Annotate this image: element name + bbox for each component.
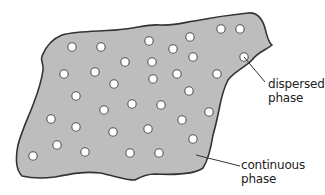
dispersed-particle xyxy=(121,58,129,66)
dispersed-particle xyxy=(144,125,152,133)
dispersed-particle xyxy=(157,101,165,109)
dispersed-particle xyxy=(100,106,108,114)
dispersed-particle xyxy=(72,123,80,131)
dispersed-particle xyxy=(128,100,136,108)
dispersed-phase-label: dispersed phase xyxy=(268,77,325,105)
dispersed-leader-line xyxy=(244,57,265,82)
dispersed-particle xyxy=(60,70,68,78)
continuous-phase-label: continuous phase xyxy=(241,158,305,186)
dispersed-particle xyxy=(29,152,37,160)
dispersed-particle xyxy=(213,70,221,78)
dispersed-particle xyxy=(173,70,181,78)
dispersed-particle xyxy=(189,135,197,143)
dispersed-particle xyxy=(91,68,99,76)
dispersed-particle xyxy=(189,53,197,61)
continuous-phase-label-line1: continuous xyxy=(241,158,305,172)
dispersed-particle xyxy=(185,87,193,95)
dispersed-particle xyxy=(110,80,118,88)
dispersed-particle xyxy=(178,116,186,124)
dispersed-particle xyxy=(186,33,194,41)
dispersed-particle xyxy=(109,128,117,136)
dispersed-particle xyxy=(205,108,213,116)
dispersed-phase-label-line1: dispersed xyxy=(268,77,325,91)
dispersed-particle xyxy=(47,115,55,123)
dispersed-particle xyxy=(149,75,157,83)
dispersed-particle xyxy=(236,25,244,33)
dispersed-particle xyxy=(148,58,156,66)
dispersed-particle xyxy=(145,37,153,45)
dispersed-particle xyxy=(97,43,105,51)
continuous-phase-region xyxy=(16,13,272,180)
dispersed-particle xyxy=(169,45,177,53)
dispersed-particle xyxy=(126,149,134,157)
dispersed-particle xyxy=(217,25,225,33)
dispersed-particle xyxy=(81,148,89,156)
dispersed-particle xyxy=(72,92,80,100)
dispersed-particle xyxy=(53,141,61,149)
continuous-phase-label-line2: phase xyxy=(241,172,305,186)
dispersed-particle xyxy=(155,149,163,157)
dispersed-phase-label-line2: phase xyxy=(268,91,325,105)
dispersed-particle xyxy=(68,43,76,51)
